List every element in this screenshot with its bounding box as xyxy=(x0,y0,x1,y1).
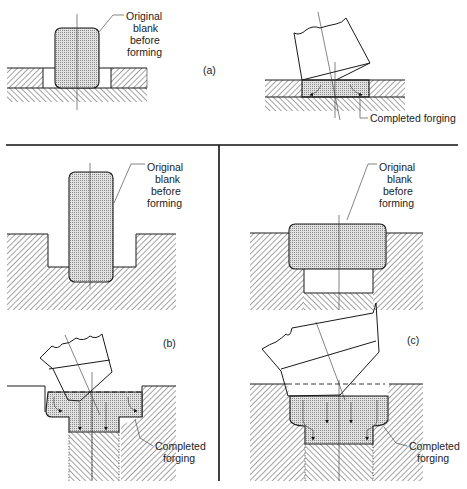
leader-line xyxy=(99,15,124,32)
leader-line xyxy=(114,164,145,203)
panel-label-a: (a) xyxy=(203,64,216,76)
forging-annotation: Completed forging xyxy=(409,440,463,464)
blank-annotation: Original blank before forming xyxy=(126,10,165,58)
rocking-die-c xyxy=(262,303,379,396)
die-axis xyxy=(316,322,345,400)
blank-annotation: Original blank before forming xyxy=(147,161,186,209)
original-blank-b xyxy=(69,172,113,282)
forging-annotation: Completed forging xyxy=(155,440,209,464)
leader-line xyxy=(347,164,377,220)
upper-die-left xyxy=(7,68,43,88)
ejector-b xyxy=(69,432,119,481)
upper-die-left-forged xyxy=(265,80,302,97)
panel-label-b: (b) xyxy=(163,337,176,349)
panel-c: Original blank before forming (c) Comple… xyxy=(250,161,463,481)
panel-label-c: (c) xyxy=(407,334,419,346)
panel-a: Original blank before forming (a) Comple… xyxy=(7,10,456,124)
orbital-forging-diagram: Original blank before forming (a) Comple… xyxy=(0,0,467,489)
ejector-c xyxy=(304,293,373,310)
upper-die-right xyxy=(111,68,147,88)
forging-annotation: Completed forging xyxy=(370,112,456,124)
rocking-die-b xyxy=(40,334,112,401)
panel-b: Original blank before forming (b) Comple xyxy=(7,161,209,481)
upper-die-right-forged xyxy=(369,80,405,97)
rocking-die xyxy=(294,18,370,80)
blank-annotation: Original blank before forming xyxy=(379,161,418,209)
original-blank-c xyxy=(289,224,386,269)
